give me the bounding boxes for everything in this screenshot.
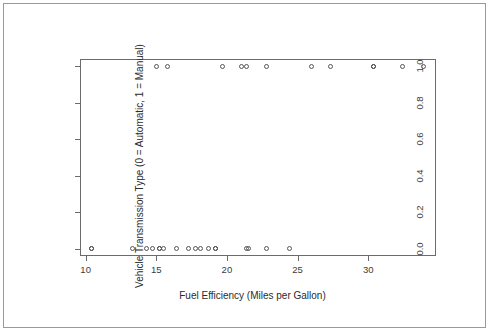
y-tick-label: 0.0 [414, 242, 425, 255]
y-axis-title: Vehicle Transmission Type (0 = Automatic… [134, 44, 145, 288]
x-tick-label: 20 [222, 264, 233, 275]
x-tick-label: 25 [292, 264, 303, 275]
y-tick-label: 0.4 [414, 169, 425, 182]
y-tick-mark [75, 176, 80, 177]
x-tick-mark [156, 256, 157, 261]
x-tick-mark [368, 256, 369, 261]
y-tick-mark [75, 139, 80, 140]
y-tick-label: 0.2 [414, 206, 425, 219]
x-tick-label: 10 [80, 264, 91, 275]
y-tick-label: 0.8 [414, 96, 425, 109]
y-tick-label: 0.6 [414, 133, 425, 146]
y-tick-label: 1.0 [414, 60, 425, 73]
scatter-plot-figure: 1015202530 0.00.20.40.60.81.0 Fuel Effic… [0, 0, 489, 332]
plot-area-box [80, 59, 436, 256]
y-tick-mark [75, 249, 80, 250]
y-tick-mark [75, 66, 80, 67]
x-axis-title: Fuel Efficiency (Miles per Gallon) [179, 290, 326, 301]
x-tick-mark [298, 256, 299, 261]
x-tick-label: 30 [363, 264, 374, 275]
x-tick-mark [227, 256, 228, 261]
x-tick-mark [86, 256, 87, 261]
y-tick-mark [75, 103, 80, 104]
y-tick-mark [75, 212, 80, 213]
x-tick-label: 15 [151, 264, 162, 275]
